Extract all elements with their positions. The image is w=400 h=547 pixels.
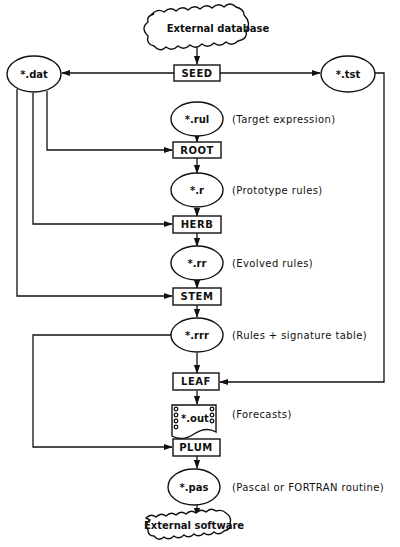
herb-label: HERB xyxy=(181,219,214,230)
edge-rrr-plum xyxy=(33,335,172,447)
plum-process: PLUM xyxy=(173,439,220,456)
edge-dat-herb xyxy=(33,93,172,224)
out-label: *.out xyxy=(181,413,209,424)
out-document: *.out (Forecasts) xyxy=(172,405,292,439)
r-label: *.r xyxy=(190,185,204,196)
rrr-description: (Rules + signature table) xyxy=(232,330,367,341)
plum-label: PLUM xyxy=(179,442,212,453)
rul-label: *.rul xyxy=(185,114,210,125)
out-description: (Forecasts) xyxy=(232,409,292,420)
root-label: ROOT xyxy=(180,145,214,156)
tst-label: *.tst xyxy=(336,69,361,80)
external-software-cloud: External software xyxy=(144,509,244,539)
rr-description: (Evolved rules) xyxy=(232,258,313,269)
external-database-cloud: External database xyxy=(144,4,270,50)
pas-description: (Pascal or FORTRAN routine) xyxy=(232,482,384,493)
tst-file: *.tst xyxy=(321,56,375,92)
flowchart-diagram: External database SEED *.dat *.tst *.rul… xyxy=(0,0,400,547)
pas-file: *.pas (Pascal or FORTRAN routine) xyxy=(168,469,384,505)
herb-process: HERB xyxy=(173,216,221,233)
leaf-label: LEAF xyxy=(181,376,211,387)
edge-dat-root xyxy=(47,91,172,150)
rul-file: *.rul (Target expression) xyxy=(171,102,335,136)
rul-description: (Target expression) xyxy=(232,114,335,125)
rr-label: *.rr xyxy=(188,258,207,269)
edge-dat-stem xyxy=(17,89,172,296)
leaf-process: LEAF xyxy=(173,373,219,390)
stem-process: STEM xyxy=(173,288,221,305)
seed-label: SEED xyxy=(181,68,212,79)
r-file: *.r (Prototype rules) xyxy=(171,173,323,207)
dat-label: *.dat xyxy=(20,69,48,80)
root-process: ROOT xyxy=(173,142,221,158)
dat-file: *.dat xyxy=(7,56,61,92)
stem-label: STEM xyxy=(181,291,214,302)
rr-file: *.rr (Evolved rules) xyxy=(171,246,313,280)
external-database-label: External database xyxy=(167,23,270,34)
external-software-label: External software xyxy=(144,520,244,531)
rrr-label: *.rrr xyxy=(185,330,209,341)
seed-process: SEED xyxy=(174,65,220,81)
pas-label: *.pas xyxy=(180,482,209,493)
r-description: (Prototype rules) xyxy=(232,185,323,196)
rrr-file: *.rrr (Rules + signature table) xyxy=(171,318,367,352)
